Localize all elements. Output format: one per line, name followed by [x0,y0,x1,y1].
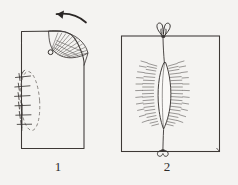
tension-hatching-left [136,61,159,126]
inferior-suture-strand [163,129,164,150]
suture-stitch [15,102,30,109]
rotation-arrow-icon [57,11,87,23]
bottom-knot-icon [157,149,168,156]
panel-one-caption: 1 [46,160,70,173]
suture-line [15,70,32,130]
suture-stitch [15,83,30,90]
flap-pivot-point [48,50,53,55]
figure-plate: 1 2 [0,0,238,185]
panel-one [15,11,88,149]
suture-stitch [16,74,31,81]
panel-two-caption: 2 [155,160,179,173]
illustration-canvas [0,0,238,185]
rotation-flap [48,31,88,66]
suture-stitch [17,121,31,128]
superior-suture-strand [163,38,164,63]
panel-two [122,23,220,156]
suture-stitch [15,93,30,100]
